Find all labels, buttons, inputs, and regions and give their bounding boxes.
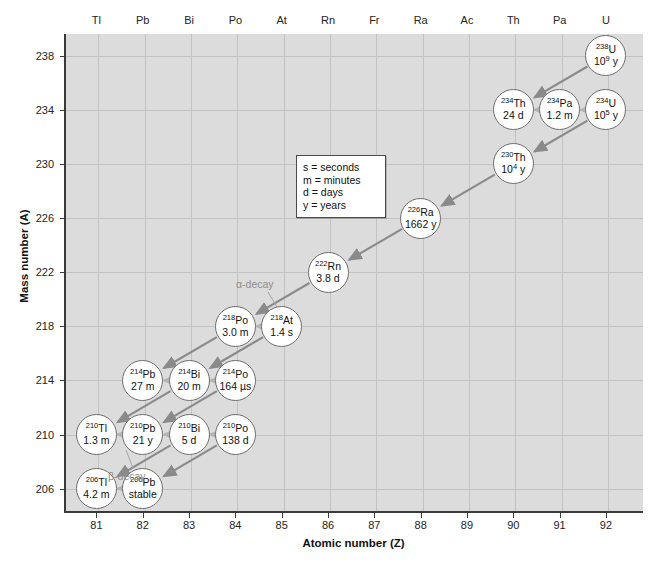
x-tick-label-92: 92 bbox=[600, 519, 612, 531]
nuclide-halflife-label: 109 y bbox=[594, 55, 618, 67]
element-symbol-Tl: Tl bbox=[92, 14, 101, 26]
gridline-horizontal bbox=[66, 56, 643, 57]
element-symbol-Rn: Rn bbox=[321, 14, 335, 26]
x-tick-label-82: 82 bbox=[137, 519, 149, 531]
element-symbol-Bi: Bi bbox=[184, 14, 194, 26]
x-tick-label-84: 84 bbox=[229, 519, 241, 531]
nuclide-isotope-label: 214Po bbox=[223, 369, 248, 380]
x-tick-label-90: 90 bbox=[507, 519, 519, 531]
nuclide-halflife-label: 1.4 s bbox=[270, 326, 293, 338]
nuclide-234Th: 234Th24 d bbox=[493, 89, 534, 130]
nuclide-210Tl: 210Tl1.3 m bbox=[76, 414, 117, 455]
nuclide-isotope-label: 210Pb bbox=[130, 423, 155, 434]
y-tick-mark bbox=[60, 56, 65, 57]
nuclide-halflife-label: 27 m bbox=[131, 380, 154, 392]
x-tick-mark bbox=[421, 513, 422, 518]
x-tick-mark bbox=[560, 513, 561, 518]
x-tick-label-88: 88 bbox=[415, 519, 427, 531]
nuclide-halflife-label: stable bbox=[129, 488, 157, 500]
y-tick-label-226: 226 bbox=[18, 212, 54, 224]
nuclide-halflife-label: 24 d bbox=[503, 109, 523, 121]
nuclide-isotope-label: 234Th bbox=[501, 98, 526, 109]
x-tick-label-83: 83 bbox=[183, 519, 195, 531]
element-symbol-U: U bbox=[602, 14, 610, 26]
nuclide-halflife-label: 3.8 d bbox=[316, 272, 339, 284]
nuclide-halflife-label: 105 y bbox=[594, 109, 618, 121]
y-tick-mark bbox=[60, 380, 65, 381]
element-symbol-Ra: Ra bbox=[414, 14, 428, 26]
legend-line-days: d = days bbox=[303, 186, 379, 199]
nuclide-226Ra: 226Ra1662 y bbox=[400, 198, 441, 239]
element-symbol-Th: Th bbox=[507, 14, 520, 26]
x-tick-mark bbox=[143, 513, 144, 518]
x-tick-label-91: 91 bbox=[553, 519, 565, 531]
gridline-horizontal bbox=[66, 326, 643, 327]
nuclide-isotope-label: 218Po bbox=[223, 315, 248, 326]
nuclide-halflife-label: 1.3 m bbox=[83, 434, 109, 446]
element-symbol-At: At bbox=[277, 14, 287, 26]
nuclide-halflife-label: 21 y bbox=[133, 434, 153, 446]
y-tick-mark bbox=[60, 435, 65, 436]
legend-box: s = seconds m = minutes d = days y = yea… bbox=[296, 155, 386, 218]
element-symbol-Pa: Pa bbox=[553, 14, 566, 26]
gridline-horizontal bbox=[66, 272, 643, 273]
y-tick-label-206: 206 bbox=[18, 483, 54, 495]
nuclide-230Th: 230Th104 y bbox=[493, 143, 534, 184]
nuclide-isotope-label: 210Po bbox=[223, 423, 248, 434]
x-tick-label-87: 87 bbox=[368, 519, 380, 531]
nuclide-isotope-label: 222Rn bbox=[315, 261, 341, 272]
x-tick-mark bbox=[96, 513, 97, 518]
y-tick-label-218: 218 bbox=[18, 320, 54, 332]
y-tick-label-230: 230 bbox=[18, 158, 54, 170]
nuclide-214Bi: 214Bi20 m bbox=[169, 360, 210, 401]
nuclide-210Bi: 210Bi5 d bbox=[169, 414, 210, 455]
nuclide-halflife-label: 104 y bbox=[501, 163, 525, 175]
beta-decay-label: β-decay bbox=[108, 470, 146, 482]
nuclide-isotope-label: 214Pb bbox=[130, 369, 155, 380]
x-tick-label-86: 86 bbox=[322, 519, 334, 531]
nuclide-isotope-label: 210Bi bbox=[178, 423, 200, 434]
y-tick-mark bbox=[60, 326, 65, 327]
element-symbol-Fr: Fr bbox=[369, 14, 379, 26]
y-tick-label-234: 234 bbox=[18, 104, 54, 116]
alpha-decay-label: α-decay bbox=[236, 278, 274, 290]
x-tick-label-89: 89 bbox=[461, 519, 473, 531]
x-tick-mark bbox=[282, 513, 283, 518]
x-tick-label-85: 85 bbox=[276, 519, 288, 531]
nuclide-halflife-label: 138 d bbox=[222, 434, 248, 446]
x-tick-label-81: 81 bbox=[90, 519, 102, 531]
y-tick-label-210: 210 bbox=[18, 429, 54, 441]
element-symbol-Pb: Pb bbox=[136, 14, 149, 26]
nuclide-210Po: 210Po138 d bbox=[215, 414, 256, 455]
nuclide-isotope-label: 234Pa bbox=[547, 98, 572, 109]
nuclide-halflife-label: 164 µs bbox=[220, 380, 252, 392]
y-tick-label-222: 222 bbox=[18, 266, 54, 278]
y-tick-mark bbox=[60, 110, 65, 111]
y-tick-mark bbox=[60, 218, 65, 219]
nuclide-isotope-label: 210Tl bbox=[86, 423, 107, 434]
legend-line-years: y = years bbox=[303, 199, 379, 212]
nuclide-halflife-label: 4.2 m bbox=[83, 488, 109, 500]
nuclide-halflife-label: 1.2 m bbox=[546, 109, 572, 121]
x-axis-title: Atomic number (Z) bbox=[64, 537, 643, 549]
x-tick-mark bbox=[467, 513, 468, 518]
element-symbol-Po: Po bbox=[229, 14, 242, 26]
nuclide-halflife-label: 5 d bbox=[182, 434, 197, 446]
y-tick-label-238: 238 bbox=[18, 50, 54, 62]
gridline-horizontal bbox=[66, 218, 643, 219]
y-tick-mark bbox=[60, 489, 65, 490]
nuclide-isotope-label: 226Ra bbox=[408, 207, 434, 218]
legend-line-seconds: s = seconds bbox=[303, 161, 379, 174]
x-tick-mark bbox=[328, 513, 329, 518]
y-axis-title: Mass number (A) bbox=[18, 186, 30, 326]
x-tick-mark bbox=[513, 513, 514, 518]
nuclide-214Pb: 214Pb27 m bbox=[122, 360, 163, 401]
nuclide-halflife-label: 3.0 m bbox=[222, 326, 248, 338]
x-tick-mark bbox=[235, 513, 236, 518]
nuclide-214Po: 214Po164 µs bbox=[215, 360, 256, 401]
nuclide-halflife-label: 1662 y bbox=[405, 218, 437, 230]
x-tick-mark bbox=[374, 513, 375, 518]
y-tick-label-214: 214 bbox=[18, 374, 54, 386]
element-symbol-Ac: Ac bbox=[461, 14, 474, 26]
nuclide-218At: 218At1.4 s bbox=[261, 306, 302, 347]
